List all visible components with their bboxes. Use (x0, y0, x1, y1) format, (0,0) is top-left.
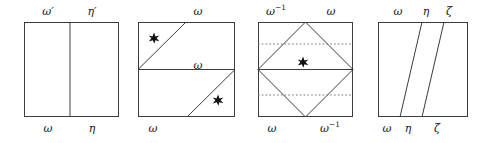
marker-star-upper-left (149, 33, 160, 44)
slanted-line-left (400, 22, 422, 117)
panel-4: ω η ζ ω η ζ (378, 0, 468, 143)
marker-star-center (298, 57, 309, 68)
panel-1-label-eta-prime-top: η′ (67, 6, 117, 17)
panel-1-lines (24, 22, 119, 117)
panel-3-label-omega-top: ω (306, 6, 356, 17)
panel-2: ω ω ω (138, 0, 235, 143)
panel-2-label-omega-top: ω (178, 6, 218, 17)
panel-2-label-omega-middle: ω (178, 60, 218, 71)
panel-4-lines (378, 22, 468, 117)
figure-four-square-diagrams: ω′ η′ ω η ω ω ω (0, 0, 483, 143)
panel-3-label-omega-inverse-top: ω−1 (248, 6, 304, 17)
panel-3-label-omega-bottom: ω (244, 123, 300, 134)
panel-4-label-zeta-bottom: ζ (422, 123, 452, 134)
marker-star-lower-right (213, 95, 224, 106)
panel-1-label-eta-bottom: η (67, 123, 117, 134)
slanted-line-right (422, 22, 444, 117)
panel-4-label-eta-bottom: η (393, 123, 423, 134)
panel-3-bot-right-exponent: −1 (329, 120, 340, 129)
diagonal-lower (187, 70, 235, 118)
panel-3-lines (258, 22, 353, 117)
panel-1: ω′ η′ ω η (24, 0, 119, 143)
panel-2-label-omega-bottom: ω (133, 123, 173, 134)
panel-4-label-zeta-top: ζ (434, 6, 464, 17)
panel-3-top-left-base: ω (266, 5, 275, 18)
panel-3-label-omega-inverse-bottom: ω−1 (302, 123, 358, 134)
panel-3-bot-right-base: ω (320, 122, 329, 135)
panel-3-top-left-exponent: −1 (275, 3, 286, 12)
panel-3: ω−1 ω ω ω−1 (258, 0, 353, 143)
